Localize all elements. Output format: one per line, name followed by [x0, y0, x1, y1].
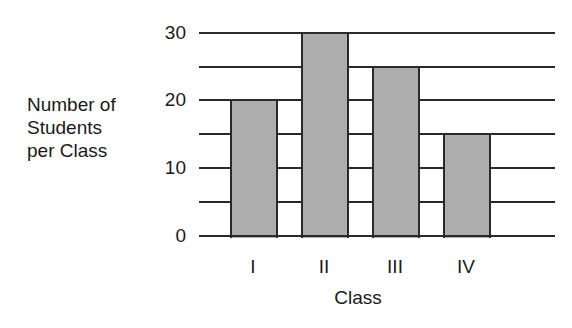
y-tick-10: 10 [156, 158, 186, 178]
bar-chart: Number of Students per Class 30 20 10 0 … [0, 0, 572, 328]
y-axis-label: Number of Students per Class [27, 93, 116, 162]
y-tick-0: 0 [156, 226, 186, 246]
bar-class-iv [443, 133, 491, 238]
bar-class-iii [372, 66, 420, 238]
x-tick-iv: IV [442, 256, 490, 278]
gridline-30 [199, 32, 555, 34]
x-axis-baseline [199, 235, 555, 237]
x-tick-i: I [229, 256, 277, 278]
bar-class-ii [301, 32, 349, 238]
y-tick-30: 30 [156, 23, 186, 43]
bar-class-i [230, 99, 278, 238]
x-tick-ii: II [300, 256, 348, 278]
x-axis-label: Class [318, 287, 398, 309]
x-tick-iii: III [371, 256, 419, 278]
y-tick-20: 20 [156, 90, 186, 110]
